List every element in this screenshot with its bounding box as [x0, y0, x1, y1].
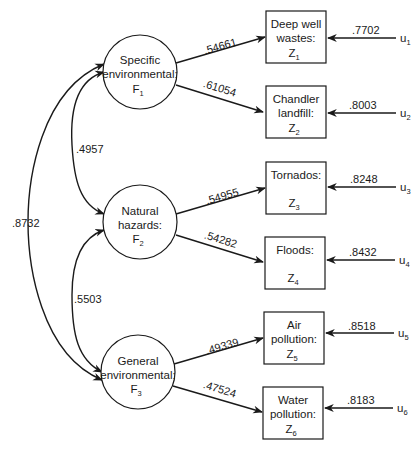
error-term-u4: u4	[399, 254, 410, 269]
error-label-u2: .8003	[349, 99, 377, 111]
svg-text:pollution:: pollution:	[271, 333, 317, 345]
svg-text:hazards:: hazards:	[118, 219, 162, 231]
correlation-label-f2-f3: .5503	[74, 293, 102, 305]
svg-text:Air: Air	[287, 319, 301, 331]
svg-text:Floods:: Floods:	[276, 244, 314, 256]
svg-text:Natural: Natural	[121, 205, 158, 217]
loading-label-z4: .54282	[203, 229, 239, 250]
svg-text:Tornados:: Tornados:	[271, 169, 322, 181]
indicator-node-z6: Water pollution: Z6	[263, 387, 323, 439]
error-term-u5: u5	[398, 327, 409, 342]
indicator-node-z5: Air pollution: Z5	[264, 312, 324, 364]
svg-text:Chandler: Chandler	[273, 93, 320, 105]
factor-node-f3: General environmental: F3	[100, 335, 175, 409]
svg-text:Specific: Specific	[120, 54, 161, 66]
svg-text:landfill:: landfill:	[278, 107, 314, 119]
indicator-node-z2: Chandler landfill: Z2	[266, 86, 326, 138]
path-diagram: .4957 .5503 .8732 Specific environmental…	[0, 0, 419, 452]
indicator-node-z4: Floods: Z4	[265, 237, 325, 289]
svg-text:environmental:: environmental:	[100, 369, 175, 381]
factor-node-f1: Specific environmental: F1	[102, 35, 177, 109]
correlation-label-f1-f2: .4957	[76, 143, 104, 155]
error-label-u6: .8183	[347, 394, 375, 406]
svg-text:pollution:: pollution:	[270, 408, 316, 420]
svg-text:Water: Water	[278, 394, 308, 406]
loading-label-z3: .54955	[204, 186, 240, 207]
error-label-u1: .7702	[352, 24, 380, 36]
error-term-u1: u1	[400, 32, 411, 47]
loading-label-z5: .49339	[204, 336, 240, 357]
svg-text:General: General	[118, 355, 159, 367]
error-label-u5: .8518	[348, 320, 376, 332]
error-term-u6: u6	[397, 402, 408, 417]
indicator-node-z1: Deep well wastes: Z1	[266, 11, 326, 63]
svg-text:Deep well: Deep well	[271, 18, 322, 30]
factor-node-f2: Natural hazards: F2	[103, 185, 177, 259]
indicator-node-z3: Tornados: Z3	[266, 162, 326, 214]
error-term-u2: u2	[400, 107, 411, 122]
loading-label-z1: .54661	[202, 36, 238, 57]
error-term-u3: u3	[400, 181, 411, 196]
svg-text:environmental:: environmental:	[102, 68, 177, 80]
correlation-label-f1-f3: .8732	[12, 217, 40, 229]
svg-text:wastes:: wastes:	[276, 32, 316, 44]
error-label-u4: .8432	[349, 246, 377, 258]
error-label-u3: .8248	[350, 173, 378, 185]
